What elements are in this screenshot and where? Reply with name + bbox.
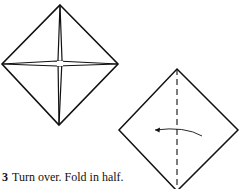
- arrowhead-icon: [155, 128, 160, 133]
- step-instruction: Turn over. Fold in half.: [12, 170, 124, 184]
- fold-arrow-curve: [155, 129, 202, 136]
- preliminary-base-diamond: [2, 5, 118, 125]
- step-caption: 3Turn over. Fold in half.: [2, 170, 124, 185]
- diagram-canvas: [0, 0, 241, 189]
- folded-diamond-with-valley-fold: [119, 69, 238, 189]
- step-number: 3: [2, 170, 8, 184]
